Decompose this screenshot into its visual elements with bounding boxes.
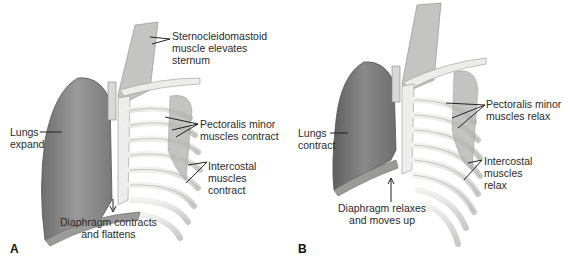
label-lungs: Lungs contract — [298, 127, 335, 151]
label-intercostal: Intercostal muscles contract — [208, 160, 256, 196]
pectoralis-minor-muscle — [168, 95, 192, 180]
label-pectoralis-minor: Pectoralis minor muscles relax — [486, 98, 561, 122]
trachea — [108, 82, 116, 120]
label-diaphragm: Diaphragm relaxes and moves up — [338, 202, 426, 226]
trachea — [392, 66, 400, 102]
panel-a-inhalation: Sternocleidomastoid muscle elevates ster… — [0, 0, 285, 261]
panel-b-exhalation: Pectoralis minor muscles relax Lungs con… — [286, 0, 571, 261]
panel-letter-b: B — [298, 242, 307, 256]
label-diaphragm: Diaphragm contracts and flattens — [60, 216, 157, 240]
label-pectoralis-minor: Pectoralis minor muscles contract — [200, 118, 279, 142]
label-sternocleidomastoid: Sternocleidomastoid muscle elevates ster… — [172, 30, 267, 66]
label-lungs: Lungs expand — [10, 126, 44, 150]
label-intercostal: Intercostal muscles relax — [484, 155, 532, 191]
panel-letter-a: A — [10, 242, 19, 256]
